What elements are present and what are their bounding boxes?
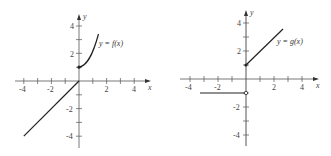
figure: -4 -2 2 4 4 2 -2 -4 x y y = f(x) [0,0,331,156]
g-linear-piece [246,29,283,65]
closed-dot-icon [244,63,247,66]
f-curve-piece [79,34,99,67]
function-label: y = f(x) [98,39,123,48]
y-axis-label: y [82,12,87,21]
closed-dot-icon [77,66,80,69]
x-tick-label: 4 [132,85,136,94]
x-tick-label: -2 [47,85,54,94]
open-dot-icon [244,91,247,94]
y-tick-label: -2 [233,103,240,112]
y-tick-label: 4 [70,22,74,31]
x-tick-label: 4 [300,83,304,92]
y-tick-label: 4 [237,19,241,28]
y-tick-label: 2 [237,47,241,56]
chart-g-labels: -4 -2 2 4 4 2 -2 -4 x y y = g(x) [185,8,320,140]
chart-g [180,10,319,146]
x-axis-label: x [315,81,320,90]
x-tick-label: -4 [19,85,26,94]
y-tick-label: -4 [66,132,73,141]
y-tick-label: 2 [70,50,74,59]
y-axis-arrow-icon [244,10,248,16]
x-axis-label: x [147,83,152,92]
x-tick-label: -2 [214,83,221,92]
y-tick-label: -4 [233,131,240,140]
y-axis-arrow-icon [77,14,81,20]
x-tick-label: 2 [272,83,276,92]
x-tick-label: -4 [185,83,192,92]
y-tick-label: -2 [66,105,73,114]
chart-f [15,14,151,148]
function-label: y = g(x) [276,37,303,46]
x-tick-label: 2 [105,85,109,94]
y-axis-label: y [249,8,254,17]
